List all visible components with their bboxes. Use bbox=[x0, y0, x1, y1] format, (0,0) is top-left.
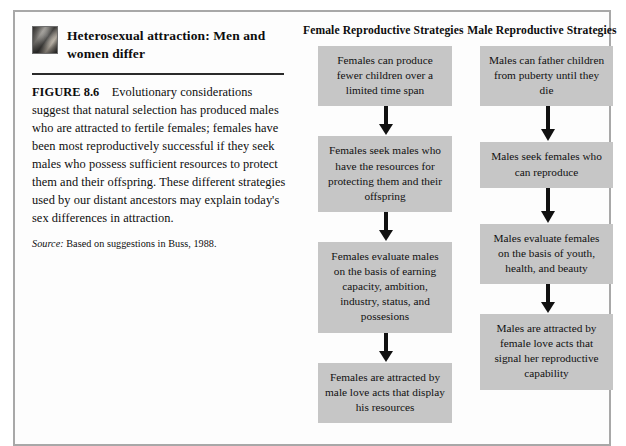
figure-heading: Heterosexual attraction: Men and women d… bbox=[32, 24, 290, 63]
down-arrow-icon bbox=[318, 212, 453, 242]
heading-divider bbox=[32, 73, 284, 75]
flow-box-male-4: Males are attracted by female love acts … bbox=[480, 314, 613, 390]
flow-box-female-3: Females evaluate males on the basis of e… bbox=[318, 242, 452, 333]
down-arrow-icon bbox=[480, 188, 615, 224]
flow-box-male-3: Males evaluate females on the basis of y… bbox=[480, 224, 613, 284]
down-arrow-icon bbox=[318, 333, 453, 363]
flow-box-female-2: Females seek males who have the resource… bbox=[318, 136, 452, 212]
figure-heading-row: Heterosexual attraction: Men and women d… bbox=[32, 24, 290, 63]
figure-source-line: Source: Based on suggestions in Buss, 19… bbox=[32, 237, 290, 251]
down-arrow-icon bbox=[480, 284, 615, 314]
source-label: Source: bbox=[32, 238, 64, 249]
figure-caption-column: Heterosexual attraction: Men and women d… bbox=[32, 24, 290, 251]
column-title-male: Male Reproductive Strategies bbox=[467, 24, 617, 37]
figure-caption-body: Evolutionary considerations suggest that… bbox=[32, 85, 285, 226]
flow-column-male: Male Reproductive Strategies Males can f… bbox=[467, 24, 617, 390]
flow-column-female: Female Reproductive Strategies Females c… bbox=[305, 24, 455, 423]
figure-frame: Heterosexual attraction: Men and women d… bbox=[13, 10, 611, 446]
flow-box-male-1: Males can father children from puberty u… bbox=[480, 46, 613, 106]
down-arrow-icon bbox=[480, 106, 615, 142]
source-text: Based on suggestions in Buss, 1988. bbox=[64, 238, 217, 249]
figure-number-label: FIGURE 8.6 bbox=[32, 85, 112, 99]
column-title-female: Female Reproductive Strategies bbox=[303, 24, 455, 37]
down-arrow-icon bbox=[318, 106, 453, 136]
flow-box-male-2: Males seek females who can reproduce bbox=[480, 142, 613, 187]
flow-box-female-1: Females can produce fewer children over … bbox=[318, 46, 452, 106]
photo-thumbnail-icon bbox=[32, 26, 58, 54]
figure-caption-text: FIGURE 8.6Evolutionary considerations su… bbox=[32, 83, 290, 228]
flow-box-female-4: Females are attracted by male love acts … bbox=[318, 363, 452, 423]
